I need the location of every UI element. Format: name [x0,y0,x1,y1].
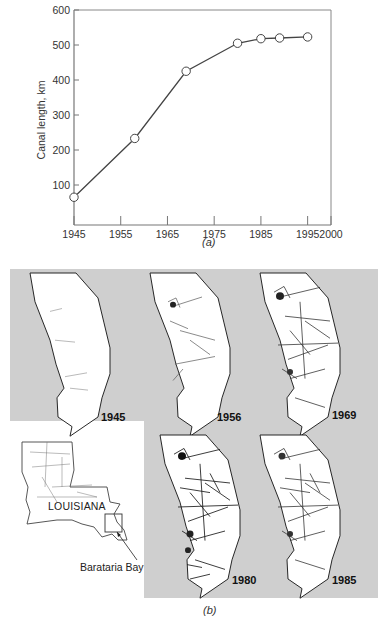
map-1980 [160,435,240,598]
panel-b-caption: (b) [203,604,216,616]
map-1945 [30,273,110,436]
callout-arrow [117,532,137,560]
map-year-1956: 1956 [217,411,241,423]
map-1969 [260,273,340,436]
map-year-1985: 1985 [332,574,356,586]
louisiana-label: LOUISIANA [48,500,106,512]
barataria-bay-label: Barataria Bay [80,561,144,573]
map-year-1980: 1980 [232,574,256,586]
map-year-1945: 1945 [101,411,125,423]
map-layer [0,0,387,628]
map-year-1969: 1969 [332,409,356,421]
map-1985 [260,435,340,598]
